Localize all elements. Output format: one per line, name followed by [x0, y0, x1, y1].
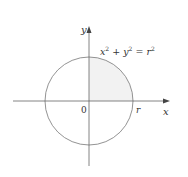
circle-equation: x2 + y2 = r2 [100, 45, 155, 57]
x-axis-label: x [163, 106, 169, 117]
radius-label: r [136, 105, 141, 115]
y-axis-arrow-icon [87, 26, 92, 33]
origin-label: 0 [81, 105, 87, 115]
shaded-quarter-disk [89, 57, 133, 101]
y-axis-label: y [80, 24, 87, 35]
x-axis-arrow-icon [163, 99, 170, 104]
circle-diagram: y x 0 r x2 + y2 = r2 [0, 0, 188, 177]
